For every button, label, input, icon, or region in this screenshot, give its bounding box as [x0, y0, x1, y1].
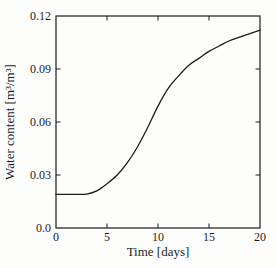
- x-axis-label: Time [days]: [127, 244, 190, 259]
- y-tick-label: 0.06: [30, 115, 51, 129]
- y-axis-label: Water content [m³/m³]: [2, 64, 17, 180]
- water-content-line-chart: 051015200.00.030.060.090.12 Time [days] …: [0, 0, 277, 268]
- x-tick-label: 5: [104, 230, 110, 244]
- x-tick-label: 10: [152, 230, 164, 244]
- figure: 051015200.00.030.060.090.12 Time [days] …: [0, 0, 277, 268]
- y-tick-label: 0.03: [30, 168, 51, 182]
- x-tick-label: 0: [53, 230, 59, 244]
- plot-area: 051015200.00.030.060.090.12: [30, 9, 266, 244]
- y-tick-label: 0.12: [30, 9, 51, 23]
- y-tick-label: 0.0: [36, 221, 51, 235]
- y-tick-label: 0.09: [30, 62, 51, 76]
- water-content-curve: [56, 30, 260, 194]
- plot-frame: [56, 16, 260, 228]
- x-tick-label: 20: [254, 230, 266, 244]
- x-tick-label: 15: [203, 230, 215, 244]
